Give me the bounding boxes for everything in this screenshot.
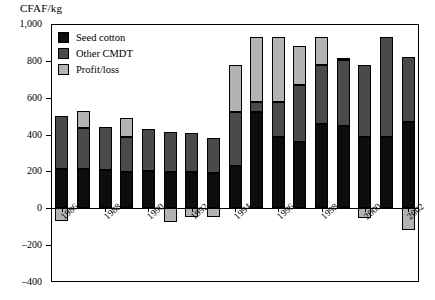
legend-label-profit-loss: Profit/loss [76, 64, 119, 75]
bar-segment-other-cmdt [142, 129, 155, 171]
y-axis-title: CFAF/kg [20, 2, 62, 14]
bar-segment-seed-cotton [207, 173, 220, 208]
bar-segment-seed-cotton [99, 170, 112, 209]
bar-group-1998 [315, 24, 328, 282]
y-axis-tick-label: –400 [0, 276, 42, 287]
bar-group-1992 [185, 24, 198, 282]
bar-segment-other-cmdt [250, 102, 263, 112]
bar-segment-profit [120, 118, 133, 137]
bar-segment-seed-cotton [77, 169, 90, 209]
bar-segment-seed-cotton [293, 142, 306, 208]
bar-segment-seed-cotton [272, 137, 285, 208]
bar-segment-profit [272, 37, 285, 102]
legend: Seed cotton Other CMDT Profit/loss [58, 30, 166, 78]
y-axis-tick-label: 800 [0, 55, 42, 66]
bar-group-2001 [380, 24, 393, 282]
bar-segment-seed-cotton [402, 122, 415, 209]
bar-segment-profit [229, 65, 242, 111]
bar-segment-seed-cotton [55, 169, 68, 209]
y-axis-tick [46, 135, 51, 136]
bar-segment-other-cmdt [99, 127, 112, 169]
bar-group-1995 [250, 24, 263, 282]
bar-segment-profit [293, 46, 306, 85]
y-axis-tick [46, 208, 51, 209]
legend-item-profit-loss: Profit/loss [58, 62, 166, 76]
bar-segment-seed-cotton [315, 124, 328, 208]
bar-group-2000 [358, 24, 371, 282]
bar-segment-profit [250, 37, 263, 102]
y-axis-tick-label: 0 [0, 202, 42, 213]
legend-swatch-profit-loss-icon [58, 64, 69, 75]
bar-group-1997 [293, 24, 306, 282]
bar-segment-seed-cotton [380, 137, 393, 208]
bar-segment-loss [164, 208, 177, 222]
y-axis-tick-label: 600 [0, 92, 42, 103]
bar-segment-other-cmdt [120, 137, 133, 172]
bar-segment-loss [207, 208, 220, 217]
bar-segment-other-cmdt [337, 60, 350, 126]
bar-segment-other-cmdt [185, 133, 198, 173]
y-axis-tick [46, 171, 51, 172]
bar-segment-seed-cotton [185, 172, 198, 208]
bar-segment-profit [77, 111, 90, 129]
legend-swatch-other-cmdt-icon [58, 48, 69, 59]
bar-segment-other-cmdt [55, 116, 68, 169]
bar-segment-other-cmdt [207, 138, 220, 173]
bar-group-2002 [402, 24, 415, 282]
y-axis-tick [46, 61, 51, 62]
bar-segment-other-cmdt [358, 65, 371, 137]
bar-segment-other-cmdt [380, 37, 393, 137]
legend-label-seed-cotton: Seed cotton [76, 32, 125, 43]
bar-group-1993 [207, 24, 220, 282]
legend-item-seed-cotton: Seed cotton [58, 30, 166, 44]
y-axis-tick [46, 98, 51, 99]
y-axis-tick-label: –200 [0, 239, 42, 250]
y-axis-tick [46, 245, 51, 246]
legend-swatch-seed-cotton-icon [58, 32, 69, 43]
legend-label-other-cmdt: Other CMDT [76, 48, 133, 59]
bar-group-1999 [337, 24, 350, 282]
bar-segment-other-cmdt [402, 57, 415, 122]
bar-segment-other-cmdt [272, 102, 285, 137]
legend-item-other-cmdt: Other CMDT [58, 46, 166, 60]
bar-segment-seed-cotton [250, 112, 263, 208]
bar-segment-other-cmdt [293, 85, 306, 142]
bar-group-1994 [229, 24, 242, 282]
bar-segment-seed-cotton [120, 172, 133, 208]
bar-group-1996 [272, 24, 285, 282]
bar-segment-other-cmdt [229, 112, 242, 166]
y-axis-tick-label: 1,000 [0, 18, 42, 29]
bar-segment-seed-cotton [229, 166, 242, 208]
chart-figure: CFAF/kg 1,0008006004002000–200–400 19861… [0, 0, 435, 300]
bar-segment-profit [315, 37, 328, 65]
bar-segment-profit [337, 58, 350, 60]
bar-segment-other-cmdt [164, 132, 177, 173]
y-axis-tick-label: 400 [0, 129, 42, 140]
y-axis-tick-label: 200 [0, 165, 42, 176]
bar-segment-seed-cotton [337, 126, 350, 208]
bar-segment-seed-cotton [142, 171, 155, 208]
bar-segment-seed-cotton [164, 172, 177, 208]
bar-segment-other-cmdt [315, 65, 328, 125]
bar-segment-other-cmdt [77, 128, 90, 169]
bar-segment-seed-cotton [358, 137, 371, 208]
